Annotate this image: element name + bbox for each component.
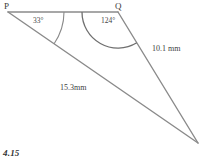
vertex-label-q: Q [115, 2, 122, 11]
angle-arc-p [54, 12, 64, 44]
side-length-label-pr: 15.3mm [60, 84, 86, 92]
angle-label-p: 33° [33, 17, 44, 25]
side-length-label-qr: 10.1 mm [152, 45, 180, 53]
angle-label-q: 124° [101, 17, 115, 25]
figure-number-label: 4.15 [3, 149, 20, 157]
segment-qr [118, 12, 198, 143]
vertex-label-p: P [4, 2, 9, 11]
figure-canvas: P Q 33° 124° 10.1 mm 15.3mm 4.15 [0, 0, 206, 157]
segment-pr [8, 12, 198, 143]
